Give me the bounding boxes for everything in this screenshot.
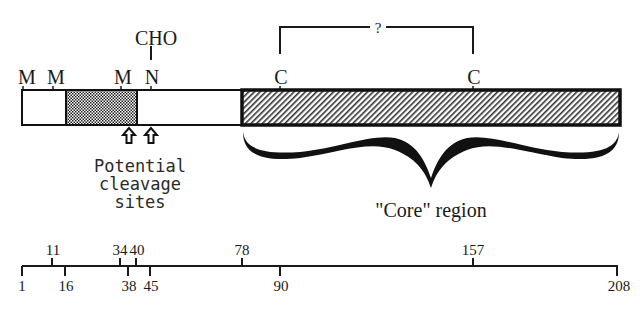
scale-label-38: 38	[122, 278, 137, 294]
scale-label-1: 1	[18, 278, 26, 294]
cleavage-label-line-2: cleavage	[99, 174, 181, 194]
cysteine-label-1: C	[274, 66, 287, 88]
asparagine-label: N	[145, 66, 159, 88]
scale-label-11: 11	[46, 242, 60, 258]
scale-labels-below: 1 16 38 45 90 208	[18, 278, 630, 294]
scale-label-16: 16	[59, 278, 75, 294]
scale-label-40: 40	[130, 242, 145, 258]
core-region-label: "Core" region	[375, 199, 486, 222]
methionine-label-2: M	[47, 66, 65, 88]
cleavage-label-line-3: sites	[114, 192, 165, 212]
cho-label: CHO	[135, 27, 177, 49]
methionine-label-1: M	[18, 66, 36, 88]
scale-label-78: 78	[235, 242, 250, 258]
core-region-brace	[243, 132, 619, 188]
scale-label-90: 90	[274, 278, 289, 294]
disulfide-question-label: ?	[375, 20, 382, 36]
scale-label-157: 157	[462, 242, 485, 258]
scale-label-208: 208	[608, 278, 631, 294]
protein-domain-diagram: ? CHO M M M N C C Potential cleavage sit…	[0, 0, 644, 309]
cleavage-arrow-1	[123, 128, 135, 143]
cysteine-label-2: C	[467, 66, 480, 88]
residue-scale	[22, 258, 618, 276]
scale-label-45: 45	[144, 278, 159, 294]
segment-n-terminal	[22, 90, 66, 125]
scale-label-34: 34	[113, 242, 129, 258]
segment-stippled	[66, 90, 137, 125]
segment-core-hatched	[242, 90, 620, 125]
cleavage-arrow-2	[145, 128, 157, 143]
cleavage-label-line-1: Potential	[94, 156, 186, 176]
segment-middle	[137, 90, 242, 125]
scale-labels-above: 11 34 40 78 157	[46, 242, 485, 258]
methionine-label-3: M	[114, 66, 132, 88]
